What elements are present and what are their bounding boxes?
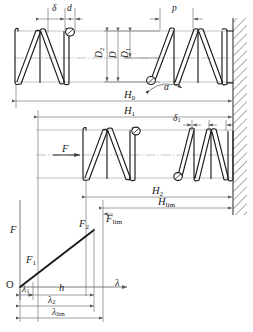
- label-D: D: [109, 51, 119, 58]
- label-Hlim: Hlim: [158, 197, 175, 209]
- label-F-axis: F: [10, 225, 16, 236]
- label-alpha: α: [164, 83, 169, 93]
- dimension-Hlim: [103, 200, 232, 322]
- label-H0: H0: [124, 90, 135, 102]
- label-delta1: δ1: [173, 114, 181, 124]
- label-lambda1: λ1: [22, 285, 29, 295]
- label-origin: O: [6, 280, 14, 291]
- dimension-delta-d: [40, 8, 83, 33]
- wire-section-right-bottom: [147, 77, 156, 85]
- wall-fixture: [233, 18, 247, 215]
- compressed-spring-right: [178, 128, 233, 181]
- label-F2: F2: [79, 219, 89, 231]
- preloaded-spring-left: [83, 128, 135, 181]
- label-D1: D1: [121, 48, 131, 58]
- label-F-force: F: [62, 144, 68, 155]
- label-Flim: Flim: [106, 214, 122, 226]
- label-lambdalim: λlim: [52, 308, 65, 318]
- label-F1: F1: [26, 255, 36, 267]
- label-delta: δ: [52, 4, 56, 14]
- label-h: h: [59, 283, 64, 294]
- label-d: d: [67, 4, 72, 14]
- free-length-spring-left: [15, 28, 69, 84]
- label-lambda-axis: λ: [115, 278, 120, 289]
- chart-dimension-lambda2: [20, 228, 94, 312]
- wire-section-left-top: [66, 28, 75, 36]
- spring-diagram-figure: δ d p D2 D D1 α H0 H1 F δ1 H2 Hlim Flim …: [0, 0, 253, 332]
- label-D2: D2: [95, 48, 105, 58]
- free-length-spring-right: [151, 28, 233, 85]
- wire-section-mid-top: [132, 127, 140, 135]
- wire-section-mid-right-bottom: [174, 173, 182, 181]
- label-p: p: [172, 4, 177, 14]
- label-lambda2: λ2: [48, 296, 55, 306]
- label-H1: H1: [124, 106, 135, 118]
